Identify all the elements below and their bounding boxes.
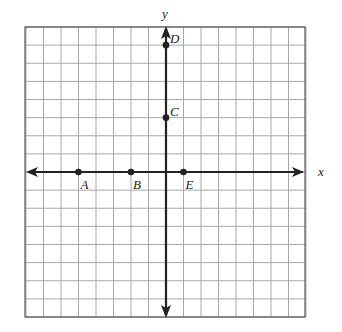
x-axis-label: x <box>317 164 324 179</box>
point-label-b: B <box>133 177 141 192</box>
point-label-e: E <box>185 177 194 192</box>
axes <box>26 26 304 318</box>
coordinate-plane: x y ABECD <box>0 0 342 332</box>
point-label-c: C <box>170 104 179 119</box>
points: ABECD <box>75 31 193 192</box>
point-label-d: D <box>169 31 180 46</box>
point-label-a: A <box>80 177 89 192</box>
y-axis-label: y <box>160 6 168 21</box>
